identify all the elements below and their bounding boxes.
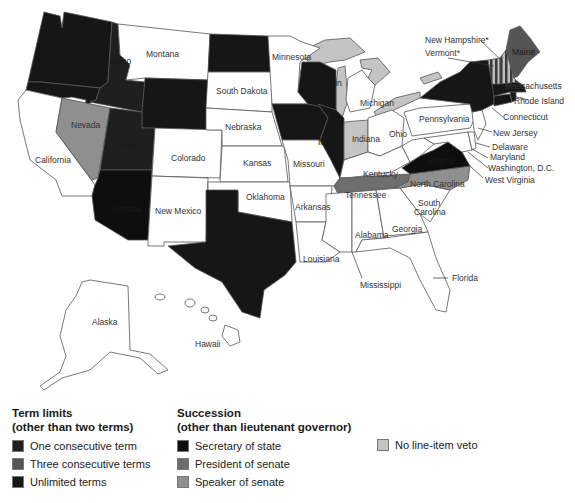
svg-text:West Virginia: West Virginia [485, 175, 535, 185]
state-north-dakota [208, 34, 272, 72]
state-new-york [420, 60, 494, 112]
legend-veto: No line-item veto [377, 435, 478, 453]
legend-title: Term limits [12, 406, 150, 420]
svg-text:Pennsylvania: Pennsylvania [419, 114, 470, 124]
svg-text:Virginia: Virginia [427, 156, 455, 166]
legend-item: President of senate [177, 455, 351, 472]
svg-text:Rhode Island: Rhode Island [514, 96, 564, 106]
svg-text:North Dakota: North Dakota [215, 56, 265, 66]
svg-text:Wyoming: Wyoming [162, 100, 198, 110]
legend-item: Three consecutive terms [12, 455, 150, 472]
legend-term-limits: Term limits (other than two terms) One c… [12, 406, 150, 490]
svg-text:New York: New York [440, 90, 477, 100]
svg-text:Kansas: Kansas [243, 158, 271, 168]
legend-label: Three consecutive terms [30, 458, 150, 470]
svg-text:Carolina: Carolina [414, 207, 446, 217]
svg-text:New Jersey: New Jersey [493, 128, 538, 138]
legend-subtitle: (other than two terms) [12, 420, 150, 434]
state-mississippi [322, 192, 352, 252]
legend-swatch [12, 458, 24, 470]
legend-label: Secretary of state [195, 440, 281, 452]
svg-text:Tennessee: Tennessee [345, 190, 386, 200]
legend-item: One consecutive term [12, 437, 150, 454]
svg-text:Hawaii: Hawaii [195, 339, 221, 349]
svg-text:Nebraska: Nebraska [225, 122, 262, 132]
state-florida [356, 232, 450, 312]
svg-text:Oklahoma: Oklahoma [246, 192, 285, 202]
legend-item: No line-item veto [377, 436, 478, 453]
legend-swatch [177, 476, 189, 488]
svg-text:North Carolina: North Carolina [410, 179, 465, 189]
svg-text:Washington, D.C.: Washington, D.C. [488, 163, 554, 173]
svg-text:Kentucky: Kentucky [363, 169, 399, 179]
svg-text:New Mexico: New Mexico [155, 206, 202, 216]
svg-text:Illinois: Illinois [318, 137, 342, 147]
legend-title: Succession [177, 406, 351, 420]
svg-text:New Hampshire*: New Hampshire* [425, 35, 489, 45]
state-alaska [40, 280, 168, 390]
svg-text:Alabama: Alabama [355, 230, 389, 240]
svg-text:Indiana: Indiana [352, 134, 380, 144]
legend-swatch [177, 440, 189, 452]
svg-text:Louisiana: Louisiana [303, 254, 340, 264]
legend-item: Unlimited terms [12, 473, 150, 490]
legend-label: Unlimited terms [30, 476, 106, 488]
svg-text:Connecticut: Connecticut [503, 112, 549, 122]
svg-text:California: California [35, 155, 71, 165]
svg-text:Mississippi: Mississippi [360, 280, 401, 290]
legend: Term limits (other than two terms) One c… [12, 406, 572, 501]
legend-succession: Succession (other than lieutenant govern… [177, 406, 351, 490]
svg-text:Texas: Texas [240, 247, 262, 257]
svg-text:Wisconsin: Wisconsin [303, 78, 342, 88]
legend-label: Speaker of senate [195, 476, 284, 488]
svg-text:Colorado: Colorado [171, 153, 206, 163]
svg-text:Massachusetts: Massachusetts [505, 81, 562, 91]
svg-text:Montana: Montana [146, 49, 179, 59]
state-connecticut [494, 94, 512, 106]
legend-swatch [177, 458, 189, 470]
svg-text:Washington: Washington [48, 32, 93, 42]
svg-text:Utah: Utah [121, 141, 139, 151]
svg-text:Idaho: Idaho [110, 56, 132, 66]
legend-swatch [377, 439, 389, 451]
legend-subtitle: (other than lieutenant governor) [177, 420, 351, 434]
svg-text:Iowa: Iowa [289, 116, 307, 126]
legend-item: Speaker of senate [177, 473, 351, 490]
legend-label: No line-item veto [395, 439, 478, 451]
svg-text:Minnesota: Minnesota [272, 52, 311, 62]
state-washington [28, 12, 112, 88]
svg-text:Vermont*: Vermont* [425, 48, 461, 58]
svg-text:Alaska: Alaska [92, 317, 118, 327]
svg-text:Delaware: Delaware [492, 142, 528, 152]
svg-text:Nevada: Nevada [71, 120, 101, 130]
svg-text:Georgia: Georgia [392, 224, 423, 234]
svg-text:Oregon: Oregon [48, 62, 77, 72]
svg-text:Ohio: Ohio [389, 129, 407, 139]
svg-text:Arizona: Arizona [112, 204, 141, 214]
legend-swatch [12, 440, 24, 452]
svg-text:Florida: Florida [452, 273, 478, 283]
svg-text:Maine: Maine [512, 47, 535, 57]
legend-label: President of senate [195, 458, 290, 470]
svg-text:Missouri: Missouri [293, 159, 325, 169]
svg-text:Maryland: Maryland [490, 152, 525, 162]
svg-text:Michigan: Michigan [360, 98, 394, 108]
legend-label: One consecutive term [30, 440, 137, 452]
us-map: Washington Oregon California Nevada Idah… [0, 0, 575, 395]
legend-swatch [12, 476, 24, 488]
svg-text:Arkansas: Arkansas [295, 202, 330, 212]
legend-item: Secretary of state [177, 437, 351, 454]
svg-text:South Dakota: South Dakota [216, 86, 268, 96]
